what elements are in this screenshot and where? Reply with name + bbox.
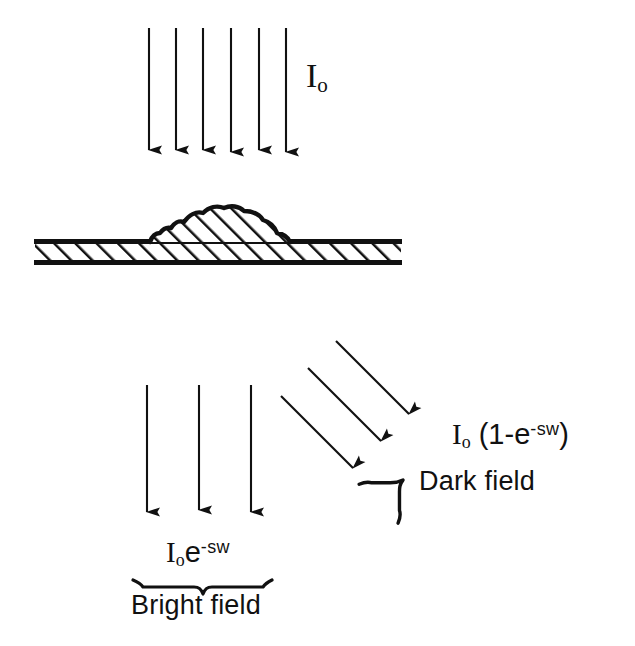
dark-field-brace-path <box>359 460 422 523</box>
bright-field-formula-subscript: o <box>176 550 185 570</box>
dark-field-formula-variable: e <box>514 418 530 450</box>
scattered-beam-arrows <box>281 341 409 468</box>
dark-field-formula-close: ) <box>559 418 569 450</box>
bright-field-caption: Bright field <box>131 592 261 619</box>
substrate-hatch-fill <box>35 241 401 263</box>
diagram-canvas <box>0 0 635 646</box>
transmitted-beam-arrows <box>147 385 251 512</box>
scattered-arrow-3 <box>281 396 353 468</box>
dark-field-formula-open: (1- <box>471 418 515 450</box>
bright-field-formula-variable: e <box>185 536 201 568</box>
dark-field-intensity-formula: Io (1-e-sw) <box>452 420 569 451</box>
dark-field-brace <box>359 460 422 523</box>
incident-intensity-symbol: I <box>306 57 317 94</box>
dark-field-caption: Dark field <box>419 468 535 495</box>
incident-beam-arrows <box>149 28 286 152</box>
incident-intensity-subscript: o <box>317 73 328 97</box>
scattered-arrow-1 <box>336 341 409 414</box>
bright-field-formula-base: I <box>166 536 176 568</box>
scattered-arrow-2 <box>308 368 381 441</box>
dark-field-formula-base: I <box>452 418 462 450</box>
bright-field-formula-exponent: -sw <box>201 537 230 557</box>
dark-field-formula-exponent: -sw <box>530 419 559 439</box>
dark-field-formula-subscript: o <box>462 432 471 452</box>
substrate <box>34 241 402 263</box>
bright-field-intensity-formula: Ioe-sw <box>166 538 230 569</box>
scattering-diagram: Io Io (1-e-sw) Dark field Ioe-sw Bright … <box>0 0 635 646</box>
incident-intensity-label: Io <box>306 58 328 96</box>
